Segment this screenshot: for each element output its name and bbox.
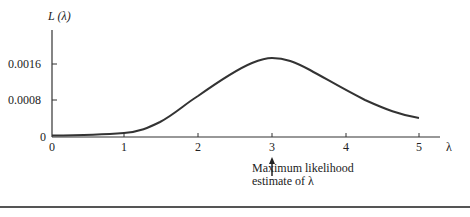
- x-tick-label: 5: [416, 140, 422, 154]
- x-tick-label: 4: [343, 140, 349, 154]
- x-tick-label: 2: [195, 140, 201, 154]
- x-tick-label: 0: [49, 140, 55, 154]
- y-tick-label: 0.0016: [8, 57, 41, 71]
- y-axis-label: L (λ): [47, 9, 71, 23]
- likelihood-chart: L (λ) 0.0016 0.0008 0 0 1 2 3 4 5 λ: [0, 0, 470, 217]
- annotation-line-2: estimate of λ: [252, 175, 354, 188]
- x-axis-label: λ: [446, 140, 452, 154]
- y-tick-label: 0.0008: [8, 93, 41, 107]
- y-tick-label: 0: [40, 130, 46, 144]
- mle-annotation: Maximum likelihood estimate of λ: [252, 162, 354, 188]
- x-tick-label: 1: [121, 140, 127, 154]
- likelihood-curve: [52, 58, 419, 136]
- x-tick-label: 3: [269, 140, 275, 154]
- bottom-rule: [0, 206, 470, 208]
